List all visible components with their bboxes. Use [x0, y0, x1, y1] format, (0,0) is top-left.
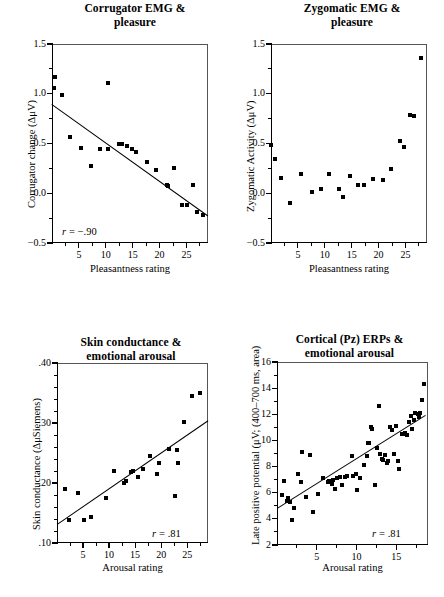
data-point: [383, 453, 387, 457]
x-minor-tick: [416, 545, 417, 548]
plot-area-cortical-pz-erps-arousal: [277, 362, 428, 545]
data-point: [358, 476, 362, 480]
correlation-value: = .81: [379, 528, 401, 539]
panel-cortical-pz-erps-arousal: Cortical (Pz) ERPs &emotional arousal161…: [0, 0, 444, 597]
y-minor-tick: [274, 401, 277, 402]
data-point: [362, 463, 366, 467]
x-tick-label: 10: [342, 551, 370, 562]
y-tick-label: 16: [227, 356, 271, 367]
data-point: [370, 427, 374, 431]
x-minor-tick: [296, 545, 297, 548]
data-point: [280, 493, 284, 497]
y-tick: [272, 440, 278, 441]
y-minor-tick: [274, 375, 277, 376]
data-point: [288, 500, 292, 504]
x-tick-label: 5: [303, 551, 331, 562]
data-point: [340, 483, 344, 487]
y-tick: [272, 544, 278, 545]
data-point: [373, 483, 377, 487]
y-tick: [272, 518, 278, 519]
y-axis-label-cortical-pz-erps-arousal: Late positive potential (μV; (400–700 ms…: [250, 346, 261, 545]
data-point: [350, 454, 354, 458]
x-axis-label-cortical-pz-erps-arousal: Arousal rating: [277, 562, 428, 573]
y-tick-label: 6: [227, 486, 271, 497]
y-tick-label: 14: [227, 382, 271, 393]
y-minor-tick: [274, 505, 277, 506]
y-tick-label: 4: [227, 512, 271, 523]
x-tick: [396, 545, 397, 551]
figure-canvas: Corrugator EMG &pleasure1.51.00.50.0−0.5…: [0, 0, 444, 597]
data-point: [330, 482, 334, 486]
y-minor-tick: [274, 453, 277, 454]
data-point: [300, 450, 304, 454]
y-tick: [272, 388, 278, 389]
y-tick-label: 12: [227, 408, 271, 419]
data-point: [299, 480, 303, 484]
data-point: [377, 404, 381, 408]
data-point: [417, 415, 421, 419]
data-point: [405, 433, 409, 437]
data-point: [407, 420, 411, 424]
y-tick: [272, 492, 278, 493]
data-point: [422, 382, 426, 386]
plot-frame-top: [277, 362, 428, 363]
data-point: [311, 510, 315, 514]
data-point: [390, 428, 394, 432]
panel-title-cortical-pz-erps-arousal: Cortical (Pz) ERPs &: [262, 333, 437, 347]
y-minor-tick: [274, 427, 277, 428]
y-tick-label: 10: [227, 434, 271, 445]
data-point: [304, 495, 308, 499]
data-point: [292, 506, 296, 510]
data-point: [378, 452, 382, 456]
correlation-symbol: r: [372, 528, 376, 539]
data-point: [410, 427, 414, 431]
data-point: [282, 479, 286, 483]
data-point: [296, 472, 300, 476]
data-point: [355, 488, 359, 492]
x-minor-tick: [336, 545, 337, 548]
data-point: [392, 452, 396, 456]
data-point: [386, 459, 390, 463]
data-point: [375, 446, 379, 450]
data-point: [321, 476, 325, 480]
data-point: [397, 467, 401, 471]
data-point: [420, 398, 424, 402]
x-minor-tick: [376, 545, 377, 548]
data-point: [365, 454, 369, 458]
data-point: [338, 475, 342, 479]
data-point: [316, 492, 320, 496]
y-tick: [272, 414, 278, 415]
x-tick-label: 15: [382, 551, 410, 562]
y-tick-label: 2: [227, 539, 271, 550]
data-point: [333, 487, 337, 491]
y-minor-tick: [274, 479, 277, 480]
data-point: [290, 518, 294, 522]
data-point: [396, 459, 400, 463]
x-axis-line: [277, 544, 428, 545]
x-tick: [356, 545, 357, 551]
data-point: [394, 424, 398, 428]
data-point: [418, 411, 422, 415]
y-tick: [272, 361, 278, 362]
panel-subtitle-cortical-pz-erps-arousal: emotional arousal: [262, 347, 437, 361]
y-tick: [272, 466, 278, 467]
data-point: [367, 441, 371, 445]
y-minor-tick: [274, 531, 277, 532]
correlation-annotation-cortical-pz-erps-arousal: r= .81: [372, 528, 401, 539]
data-point: [308, 453, 312, 457]
data-point: [345, 474, 349, 478]
regression-line: [277, 415, 425, 509]
plot-frame-right: [427, 362, 428, 545]
x-tick: [316, 545, 317, 551]
data-point: [412, 418, 416, 422]
y-tick-label: 8: [227, 460, 271, 471]
